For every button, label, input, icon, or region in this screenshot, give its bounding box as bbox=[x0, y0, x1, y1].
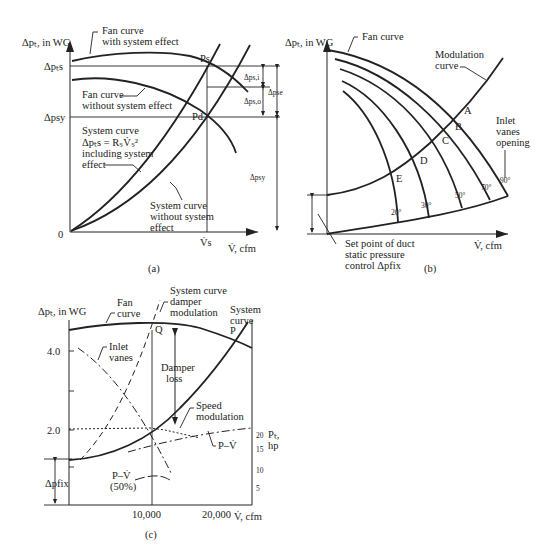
b-inlet-label-2: vanes bbox=[496, 126, 520, 137]
a-label-sys-incl-1: System curve bbox=[82, 125, 139, 136]
c-ylabel: Δpₜ, in WG bbox=[38, 306, 87, 317]
c-y2tick-10: 10 bbox=[256, 466, 264, 475]
c-y2tick-20: 20 bbox=[256, 431, 264, 440]
c-pv50-label-2: (50%) bbox=[110, 481, 137, 493]
c-xtick-20000: 20,000 bbox=[202, 509, 231, 520]
c-point-q: Q bbox=[155, 324, 163, 335]
a-dps-o: Δps,o bbox=[244, 97, 261, 106]
a-label-fan-with-1: Fan curve bbox=[102, 25, 144, 36]
b-angle-20: 20° bbox=[391, 208, 402, 217]
b-fan-curve-20 bbox=[343, 91, 398, 222]
a-ylabel: Δpₜ, in WG bbox=[22, 37, 71, 48]
a-label-sys-wo-3: effect bbox=[150, 222, 174, 233]
a-pd: Pd bbox=[192, 111, 204, 122]
b-point-b: B bbox=[455, 121, 462, 132]
c-damper-loss-1: Damper bbox=[161, 362, 195, 373]
a-xlabel: V̇, cfm bbox=[228, 243, 256, 254]
c-speed-label-2: modulation bbox=[196, 411, 245, 422]
c-xlabel: V̇, cfm bbox=[234, 511, 262, 522]
b-inlet-label-3: opening bbox=[496, 137, 531, 148]
a-label-fan-without-2: without system effect bbox=[82, 100, 172, 111]
c-y2tick-15: 15 bbox=[256, 445, 264, 454]
panel-a: Δpₜ, in WG 0 Δpₜs Δpsy V̇s V̇, cfm (a) P… bbox=[22, 25, 283, 275]
a-origin: 0 bbox=[58, 229, 63, 240]
b-x-arrow-icon bbox=[496, 230, 508, 238]
a-label-fan-with-2: with system effect bbox=[102, 36, 179, 47]
b-ylabel: Δpₜ, in WG bbox=[285, 37, 334, 48]
c-damp-label-3: modulation bbox=[170, 307, 219, 318]
c-speed-modulation-curve bbox=[69, 428, 200, 438]
a-dpsy: Δpsy bbox=[250, 173, 265, 182]
c-sys-label-1: System bbox=[230, 304, 261, 315]
a-ps: Ps bbox=[200, 53, 210, 64]
c-fan-label-1: Fan bbox=[117, 297, 134, 308]
c-damper-loss-2: loss bbox=[166, 373, 182, 384]
b-base-curve bbox=[327, 196, 508, 234]
c-pv50-label-1: P–V̇ bbox=[112, 470, 131, 481]
a-label-sys-wo-2: without system bbox=[150, 211, 214, 222]
b-point-e: E bbox=[396, 173, 402, 184]
a-dps-i: Δps,i bbox=[244, 73, 259, 82]
b-fan-label: Fan curve bbox=[362, 31, 404, 42]
a-ytick-psy: Δpsy bbox=[44, 112, 66, 123]
a-label-fan-without-1: Fan curve bbox=[82, 89, 124, 100]
c-y2label-2: hp bbox=[268, 440, 279, 451]
c-y2label-1: Pₜ, bbox=[268, 429, 279, 440]
c-ytick-4: 4.0 bbox=[47, 346, 60, 357]
b-angle-90: 90° bbox=[500, 176, 511, 185]
b-angle-30: 30° bbox=[421, 201, 432, 210]
c-pv-label: P–V̇ bbox=[218, 440, 237, 451]
panel-b: Δpₜ, in WG V̇, cfm (b) Set point of duct… bbox=[285, 31, 531, 275]
c-dpfix: Δpfix bbox=[45, 478, 69, 489]
c-inlet-label-2: vanes bbox=[109, 352, 133, 363]
c-xtick-10000: 10,000 bbox=[132, 509, 161, 520]
b-caption: (b) bbox=[424, 263, 437, 275]
c-pv50-curve bbox=[135, 476, 170, 480]
b-xlabel: V̇, cfm bbox=[474, 240, 502, 251]
a-ytick-pts: Δpₜs bbox=[44, 61, 63, 72]
panel-c: Δpₜ, in WG 4.0 2.0 10,000 20,000 V̇, cfm… bbox=[38, 285, 279, 541]
a-label-sys-incl-4: effect bbox=[82, 159, 106, 170]
c-damp-label-2: damper bbox=[170, 296, 202, 307]
b-inlet-label-1: Inlet bbox=[496, 115, 515, 126]
b-angle-70: 70° bbox=[481, 183, 492, 192]
a-caption: (a) bbox=[148, 263, 160, 275]
a-xtick-vs: V̇s bbox=[200, 237, 212, 248]
c-speed-label-1: Speed bbox=[196, 400, 222, 411]
b-point-a: A bbox=[464, 105, 472, 116]
a-x-arrow-icon bbox=[246, 228, 258, 236]
b-angle-50: 50° bbox=[455, 191, 466, 200]
b-set-label-3: control Δpfix bbox=[345, 260, 402, 271]
b-point-d: D bbox=[420, 155, 428, 166]
c-ytick-2: 2.0 bbox=[47, 425, 60, 436]
a-dpse: Δpse bbox=[268, 88, 283, 97]
c-fan-label-2: curve bbox=[117, 308, 141, 319]
c-inlet-label-1: Inlet bbox=[109, 341, 128, 352]
c-y2tick-5: 5 bbox=[256, 484, 260, 493]
a-label-sys-wo-1: System curve bbox=[150, 200, 207, 211]
b-set-label-2: static pressure bbox=[345, 249, 405, 260]
c-inlet-vanes-curve bbox=[78, 348, 172, 475]
b-set-label-1: Set point of duct bbox=[345, 238, 415, 249]
b-point-c: C bbox=[442, 135, 449, 146]
b-mod-label-1: Modulation bbox=[435, 49, 485, 60]
fan-curves-figure: Δpₜ, in WG 0 Δpₜs Δpsy V̇s V̇, cfm (a) P… bbox=[0, 0, 551, 556]
b-fan-curve-70 bbox=[335, 59, 490, 200]
c-point-p: P bbox=[230, 325, 236, 336]
a-label-sys-incl-2: Δpₜs = RₛV̇ₛ² bbox=[82, 137, 138, 148]
c-damp-label-1: System curve bbox=[170, 285, 227, 296]
b-mod-label-2: curve bbox=[435, 60, 459, 71]
c-caption: (c) bbox=[145, 529, 157, 541]
a-label-sys-incl-3: including system bbox=[82, 148, 153, 159]
a-fan-curve-with-effect bbox=[72, 53, 248, 92]
